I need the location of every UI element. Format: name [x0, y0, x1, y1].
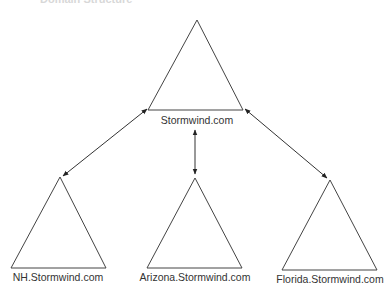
child-domain-label-florida: Florida.Stormwind.com: [276, 273, 384, 285]
trust-arrow-nh: [63, 109, 147, 176]
child-domain-triangle-florida: [282, 180, 377, 270]
child-domain-triangle-arizona: [147, 178, 242, 268]
domain-tree-diagram: Stormwind.com NH.Stormwind.com Arizona.S…: [0, 0, 392, 293]
child-domain-label-nh: NH.Stormwind.com: [13, 271, 104, 283]
child-domain-triangle-nh: [11, 177, 106, 268]
child-domain-label-arizona: Arizona.Stormwind.com: [140, 271, 251, 283]
trust-arrow-florida: [245, 109, 327, 178]
root-domain-label: Stormwind.com: [161, 114, 234, 126]
root-domain-triangle: [148, 20, 243, 110]
